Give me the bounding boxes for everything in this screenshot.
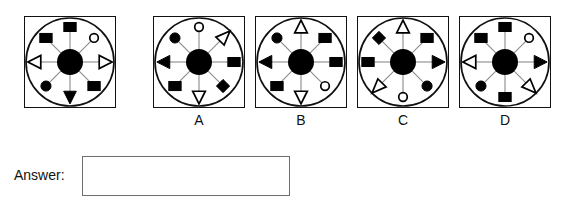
label-option-d: D	[459, 112, 551, 128]
panel-option-a[interactable]	[153, 16, 245, 108]
answer-area: Answer:	[0, 150, 564, 206]
node-n	[64, 22, 76, 31]
panel-option-c[interactable]	[357, 16, 449, 108]
spoke-se	[208, 71, 220, 83]
filled-circle-icon	[476, 81, 486, 91]
label-option-a: A	[153, 112, 245, 128]
open-circle-icon	[321, 82, 330, 91]
filled-square-icon	[499, 22, 511, 31]
filled-square-icon	[228, 57, 240, 66]
spoke-ne	[208, 41, 220, 53]
node-w	[28, 55, 41, 68]
puzzle-row: ABCD	[0, 0, 564, 140]
spoke-ne	[79, 41, 91, 53]
node-n	[195, 23, 204, 32]
filled-triangle-right-icon	[534, 55, 547, 68]
filled-square-icon	[421, 33, 433, 42]
hub-circle	[57, 49, 83, 75]
filled-circle-icon	[170, 33, 180, 43]
node-nw	[40, 33, 52, 42]
panel-option-b[interactable]	[255, 16, 347, 108]
node-sw	[41, 81, 51, 91]
filled-square-icon	[88, 82, 100, 91]
spoke-sw	[484, 71, 496, 83]
filled-square-icon	[362, 57, 374, 66]
filled-square-icon	[169, 82, 181, 91]
filled-circle-icon	[422, 81, 432, 91]
open-triangle-right-icon	[99, 55, 112, 68]
node-se	[88, 82, 100, 91]
open-triangle-up-icon	[397, 20, 410, 33]
open-triangle-down-icon	[193, 91, 206, 104]
node-nw	[170, 33, 180, 43]
filled-triangle-left-icon	[259, 55, 272, 68]
node-s	[399, 93, 408, 102]
node-nw	[475, 33, 487, 42]
node-e	[228, 57, 240, 66]
node-ne	[525, 34, 534, 43]
filled-triangle-left-icon	[157, 55, 170, 68]
filled-square-icon	[499, 92, 511, 101]
spoke-nw	[178, 41, 190, 53]
node-n	[295, 20, 308, 33]
open-circle-icon	[525, 34, 534, 43]
label-option-c: C	[357, 112, 449, 128]
open-circle-icon	[399, 93, 408, 102]
answer-label: Answer:	[14, 166, 65, 184]
panel-diagram	[255, 16, 347, 108]
node-e	[99, 55, 112, 68]
filled-square-icon	[319, 33, 331, 42]
label-option-b: B	[255, 112, 347, 128]
node-e	[330, 57, 342, 66]
spoke-se	[514, 71, 526, 83]
node-s	[295, 91, 308, 104]
spoke-nw	[280, 41, 292, 53]
node-w	[463, 55, 476, 68]
answer-input[interactable]	[82, 156, 290, 196]
node-s	[193, 91, 206, 104]
node-ne	[319, 33, 331, 42]
filled-square-icon	[330, 57, 342, 66]
panel-option-d[interactable]	[459, 16, 551, 108]
open-triangle-up-icon	[295, 20, 308, 33]
node-s	[64, 91, 77, 104]
filled-square-icon	[475, 33, 487, 42]
panel-diagram	[357, 16, 449, 108]
panel-diagram	[153, 16, 245, 108]
filled-circle-icon	[272, 33, 282, 43]
open-triangle-down-icon	[295, 91, 308, 104]
node-ne	[90, 34, 99, 43]
node-ne	[421, 33, 433, 42]
node-w	[362, 57, 374, 66]
hub-circle	[288, 49, 314, 75]
spoke-nw	[382, 41, 394, 53]
open-circle-icon	[195, 23, 204, 32]
filled-square-icon	[40, 33, 52, 42]
node-sw	[476, 81, 486, 91]
spoke-sw	[382, 71, 394, 83]
node-n	[397, 20, 410, 33]
hub-circle	[492, 49, 518, 75]
hub-circle	[186, 49, 212, 75]
node-sw	[169, 82, 181, 91]
node-se	[422, 81, 432, 91]
node-nw	[272, 33, 282, 43]
open-triangle-left-icon	[28, 55, 41, 68]
panel-question	[24, 16, 116, 108]
node-se	[321, 82, 330, 91]
panel-diagram	[24, 16, 116, 108]
filled-triangle-down-icon	[64, 91, 77, 104]
node-s	[499, 92, 511, 101]
filled-square-icon	[64, 22, 76, 31]
node-w	[157, 55, 170, 68]
spoke-sw	[49, 71, 61, 83]
spoke-se	[412, 71, 424, 83]
node-e	[432, 55, 445, 68]
hub-circle	[390, 49, 416, 75]
spoke-ne	[514, 41, 526, 53]
filled-circle-icon	[41, 81, 51, 91]
filled-triangle-right-icon	[432, 55, 445, 68]
filled-square-icon	[271, 82, 283, 91]
node-w	[259, 55, 272, 68]
node-e	[534, 55, 547, 68]
